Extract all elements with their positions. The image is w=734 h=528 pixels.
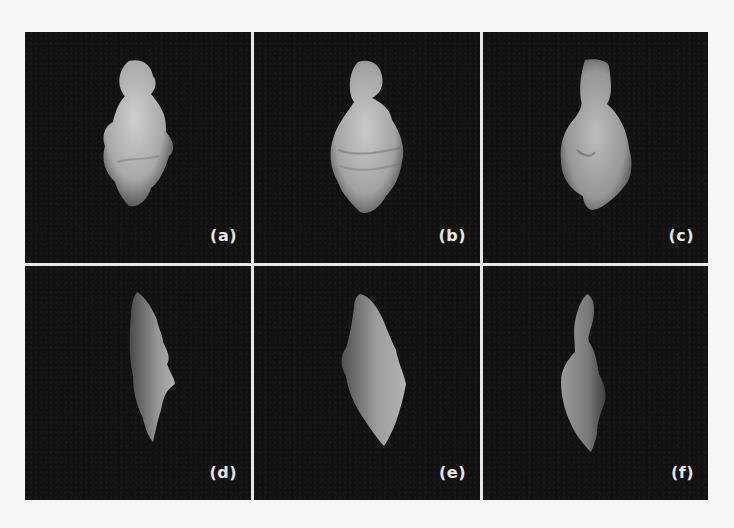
panel-b: (b): [254, 32, 480, 263]
panel-e: (e): [254, 266, 480, 500]
vertebra-shape: [342, 294, 407, 446]
vertebra-shape: [331, 61, 404, 213]
vertebra-shape: [103, 60, 173, 206]
panel-d: (d): [25, 266, 251, 500]
page: (a) (b): [0, 0, 734, 528]
vertebra-shape: [561, 294, 606, 452]
panel-f: (f): [483, 266, 708, 500]
vertebra-shape: [561, 59, 632, 210]
panel-label: (e): [439, 463, 466, 482]
panel-a: (a): [25, 32, 251, 263]
panel-c: (c): [483, 32, 708, 263]
figure-grid: (a) (b): [25, 32, 708, 500]
vertebra-shape: [130, 292, 175, 442]
panel-label: (d): [209, 463, 237, 482]
panel-label: (c): [668, 226, 694, 245]
panel-label: (f): [671, 463, 694, 482]
panel-label: (a): [210, 226, 237, 245]
panel-label: (b): [438, 226, 466, 245]
